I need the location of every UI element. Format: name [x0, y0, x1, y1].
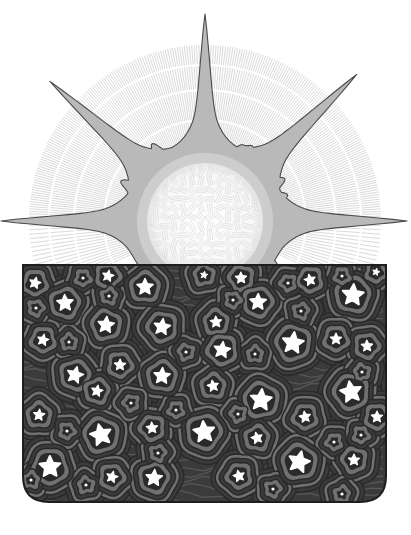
star-dot	[29, 478, 32, 481]
star-dot	[340, 492, 343, 495]
star-dot	[107, 294, 110, 297]
star-dot	[299, 309, 302, 312]
star-dot	[231, 298, 234, 301]
star-dot	[286, 281, 289, 284]
star-dot	[65, 429, 68, 432]
star-dot	[174, 408, 177, 411]
contour-rings	[7, 247, 406, 517]
star-dot	[129, 401, 132, 404]
star-dot	[156, 451, 159, 454]
star-dot	[67, 340, 70, 343]
star-dot	[81, 276, 84, 279]
star-dot	[34, 306, 37, 309]
star-dot	[359, 433, 362, 436]
star-dot	[360, 370, 363, 373]
night-box	[7, 247, 406, 517]
star-dot	[236, 412, 239, 415]
star-dot	[253, 352, 256, 355]
star-dot	[271, 487, 274, 490]
star-dot	[332, 440, 335, 443]
star-dot	[84, 483, 87, 486]
star-dot	[340, 274, 343, 277]
sun-over-night-box-illustration: Rising sun over a starry night box	[0, 0, 411, 535]
star-dot	[184, 350, 187, 353]
